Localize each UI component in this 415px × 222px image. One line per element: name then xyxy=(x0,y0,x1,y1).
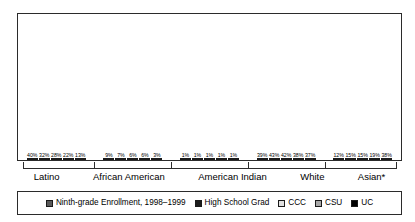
bar-value-label: 15% xyxy=(345,152,355,158)
bar xyxy=(228,158,239,160)
bar xyxy=(257,158,268,160)
bar xyxy=(75,158,86,160)
legend-swatch-icon xyxy=(315,200,322,207)
bar-value-label: 38% xyxy=(381,152,391,158)
category-label-3: White xyxy=(300,170,324,184)
bar xyxy=(51,158,62,160)
bar xyxy=(139,158,150,160)
bar-wrapper: 1% xyxy=(180,14,191,160)
bar-group: 9%7%6%6%3% xyxy=(103,14,162,160)
bar xyxy=(63,158,74,160)
category-label-4: Asian* xyxy=(358,170,385,184)
bar-wrapper: 3% xyxy=(151,14,162,160)
axis-baseline xyxy=(23,168,396,169)
bar-wrapper: 37% xyxy=(305,14,316,160)
bar-value-label: 42% xyxy=(281,152,291,158)
bar-wrapper: 22% xyxy=(63,14,74,160)
bar-wrapper: 28% xyxy=(51,14,62,160)
bar xyxy=(115,158,126,160)
bar-value-label: 37% xyxy=(305,152,315,158)
legend-item-4: UC xyxy=(351,198,373,208)
bar-value-label: 1% xyxy=(218,152,226,158)
bar-value-label: 13% xyxy=(75,152,85,158)
axis-tick xyxy=(23,162,24,169)
bar-wrapper: 40% xyxy=(27,14,38,160)
bar-wrapper: 42% xyxy=(281,14,292,160)
bar-wrapper: 15% xyxy=(357,14,368,160)
bar xyxy=(216,158,227,160)
bar xyxy=(281,158,292,160)
bar-wrapper: 1% xyxy=(216,14,227,160)
bar-wrapper: 39% xyxy=(257,14,268,160)
bar xyxy=(127,158,138,160)
bar-wrapper: 7% xyxy=(115,14,126,160)
category-label-0: Latino xyxy=(34,170,60,184)
bar-value-label: 38% xyxy=(293,152,303,158)
bar-group: 1%1%1%1%1% xyxy=(180,14,239,160)
bar-wrapper: 1% xyxy=(228,14,239,160)
bar-value-label: 40% xyxy=(27,152,37,158)
bar-wrapper: 13% xyxy=(75,14,86,160)
bar-wrapper: 15% xyxy=(345,14,356,160)
legend-swatch-icon xyxy=(351,200,358,207)
legend-swatch-icon xyxy=(46,200,53,207)
category-label-1: African American xyxy=(93,170,165,184)
legend-label: CCC xyxy=(288,198,306,208)
bar-wrapper: 6% xyxy=(139,14,150,160)
bar-value-label: 6% xyxy=(141,152,149,158)
bar-value-label: 22% xyxy=(63,152,73,158)
bar-value-label: 1% xyxy=(182,152,190,158)
bar-value-label: 19% xyxy=(369,152,379,158)
bar-value-label: 12% xyxy=(333,152,343,158)
bar-value-label: 1% xyxy=(230,152,238,158)
bar xyxy=(269,158,280,160)
bar xyxy=(381,158,392,160)
bar xyxy=(180,158,191,160)
legend-item-2: CCC xyxy=(278,198,306,208)
chart-container: 40%32%28%22%13%9%7%6%6%3%1%1%1%1%1%39%43… xyxy=(0,0,415,222)
axis-tick xyxy=(325,162,326,169)
bar-wrapper: 1% xyxy=(204,14,215,160)
bar-wrapper: 6% xyxy=(127,14,138,160)
bar-value-label: 9% xyxy=(105,152,113,158)
bar xyxy=(369,158,380,160)
bar-value-label: 39% xyxy=(257,152,267,158)
bar-group: 39%43%42%38%37% xyxy=(257,14,316,160)
category-label-2: American Indian xyxy=(198,170,267,184)
bar-value-label: 3% xyxy=(153,152,161,158)
bar xyxy=(192,158,203,160)
legend-item-1: High School Grad xyxy=(195,198,270,208)
legend-swatch-icon xyxy=(278,200,285,207)
bar xyxy=(333,158,344,160)
bar-value-label: 32% xyxy=(39,152,49,158)
bar-value-label: 28% xyxy=(51,152,61,158)
legend-label: High School Grad xyxy=(205,198,270,208)
bar xyxy=(204,158,215,160)
bar-wrapper: 12% xyxy=(333,14,344,160)
legend-label: CSU xyxy=(325,198,342,208)
legend-item-0: Ninth-grade Enrollment, 1998–1999 xyxy=(46,198,186,208)
legend-item-3: CSU xyxy=(315,198,342,208)
axis-tick xyxy=(396,162,397,169)
axis-tick xyxy=(248,162,249,169)
bar-wrapper: 38% xyxy=(293,14,304,160)
axis-tick-row xyxy=(17,162,402,170)
bar-value-label: 7% xyxy=(117,152,125,158)
bar-wrapper: 32% xyxy=(39,14,50,160)
plot-area: 40%32%28%22%13%9%7%6%6%3%1%1%1%1%1%39%43… xyxy=(18,14,401,160)
bar-value-label: 1% xyxy=(206,152,214,158)
bar-group: 40%32%28%22%13% xyxy=(27,14,86,160)
bar-wrapper: 43% xyxy=(269,14,280,160)
bar xyxy=(27,158,38,160)
bar xyxy=(357,158,368,160)
bar-wrapper: 1% xyxy=(192,14,203,160)
bar-group: 12%15%15%19%38% xyxy=(333,14,392,160)
bar xyxy=(151,158,162,160)
bar-value-label: 15% xyxy=(357,152,367,158)
bar xyxy=(39,158,50,160)
chart-legend: Ninth-grade Enrollment, 1998–1999High Sc… xyxy=(17,191,402,215)
legend-label: Ninth-grade Enrollment, 1998–1999 xyxy=(56,198,186,208)
bar-wrapper: 38% xyxy=(381,14,392,160)
bar xyxy=(345,158,356,160)
bar xyxy=(293,158,304,160)
